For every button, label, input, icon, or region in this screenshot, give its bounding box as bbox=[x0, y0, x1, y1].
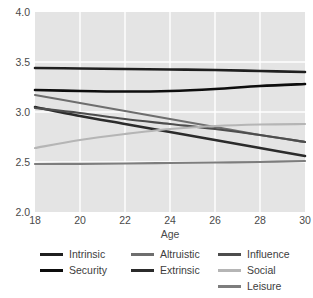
legend-entry-altruistic[interactable]: Altruistic bbox=[131, 246, 200, 262]
x-tick-label: 18 bbox=[29, 214, 41, 226]
legend-swatch-extrinsic bbox=[131, 269, 154, 272]
chart-legend: IntrinsicSecurityAltruisticExtrinsicInfl… bbox=[0, 246, 313, 298]
legend-label-influence: Influence bbox=[247, 246, 290, 262]
legend-label-social: Social bbox=[247, 262, 276, 278]
legend-column-1: IntrinsicSecurity bbox=[40, 246, 107, 278]
legend-label-extrinsic: Extrinsic bbox=[160, 262, 200, 278]
y-tick-label: 2.5 bbox=[15, 156, 30, 168]
y-tick-label: 3.0 bbox=[15, 106, 30, 118]
legend-swatch-intrinsic bbox=[40, 253, 63, 256]
legend-entry-influence[interactable]: Influence bbox=[218, 246, 290, 262]
x-axis-tick-labels: 18202224262830 bbox=[29, 214, 311, 226]
legend-swatch-leisure bbox=[218, 285, 241, 288]
legend-entry-social[interactable]: Social bbox=[218, 262, 290, 278]
y-tick-label: 3.5 bbox=[15, 56, 30, 68]
legend-label-intrinsic: Intrinsic bbox=[69, 246, 105, 262]
legend-column-3: InfluenceSocialLeisure bbox=[218, 246, 290, 294]
legend-label-leisure: Leisure bbox=[247, 278, 281, 294]
legend-column-2: AltruisticExtrinsic bbox=[131, 246, 200, 278]
legend-swatch-altruistic bbox=[131, 253, 154, 256]
legend-swatch-influence bbox=[218, 253, 241, 256]
x-tick-label: 26 bbox=[209, 214, 221, 226]
legend-swatch-social bbox=[218, 269, 241, 272]
legend-entry-extrinsic[interactable]: Extrinsic bbox=[131, 262, 200, 278]
legend-entry-security[interactable]: Security bbox=[40, 262, 107, 278]
x-axis-title: Age bbox=[161, 228, 180, 240]
x-tick-label: 28 bbox=[254, 214, 266, 226]
y-tick-label: 4.0 bbox=[15, 6, 30, 18]
line-chart-figure: 18202224262830 2.02.53.03.54.0 Age Intri… bbox=[0, 0, 313, 298]
x-tick-label: 20 bbox=[74, 214, 86, 226]
legend-entry-leisure[interactable]: Leisure bbox=[218, 278, 290, 294]
legend-entry-intrinsic[interactable]: Intrinsic bbox=[40, 246, 107, 262]
x-tick-label: 24 bbox=[164, 214, 176, 226]
legend-swatch-security bbox=[40, 269, 63, 272]
y-tick-label: 2.0 bbox=[15, 206, 30, 218]
x-tick-label: 22 bbox=[119, 214, 131, 226]
legend-label-altruistic: Altruistic bbox=[160, 246, 200, 262]
y-axis-tick-labels: 2.02.53.03.54.0 bbox=[15, 6, 30, 218]
legend-label-security: Security bbox=[69, 262, 107, 278]
x-tick-label: 30 bbox=[299, 214, 311, 226]
